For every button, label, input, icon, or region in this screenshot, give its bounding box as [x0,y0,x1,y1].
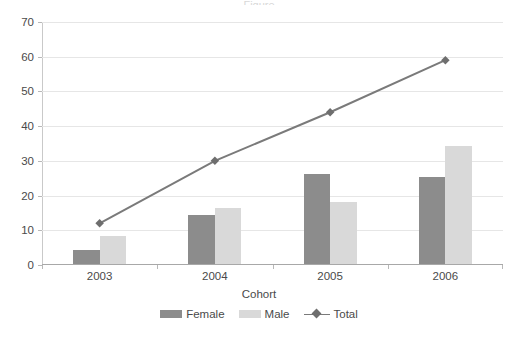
bar-group [304,21,357,264]
legend-item-female[interactable]: Female [160,308,224,320]
x-tick-label-2003: 2003 [87,270,113,282]
bar-group [419,21,472,264]
x-tick-mark [42,265,43,269]
x-tick-mark [388,265,389,269]
bar-group [188,21,241,264]
bar-female-2006[interactable] [419,177,446,264]
x-tick-mark [157,265,158,269]
y-tick-label: 70 [0,16,34,28]
legend-swatch-female-icon [160,310,182,318]
y-tick-label: 10 [0,224,34,236]
chart-title-cropped: Figure [0,0,518,5]
legend-swatch-male-icon [239,310,261,318]
bar-female-2004[interactable] [188,215,215,264]
bar-male-2004[interactable] [215,208,242,264]
bar-male-2003[interactable] [100,236,127,264]
plot-area [42,22,503,265]
bar-series-layer [42,22,503,265]
legend-item-male[interactable]: Male [239,308,290,320]
bar-group [73,21,126,264]
x-tick-label-2004: 2004 [202,270,228,282]
bar-female-2003[interactable] [73,250,100,264]
y-tick-label: 30 [0,155,34,167]
bar-male-2006[interactable] [445,146,472,264]
x-tick-mark [502,265,503,269]
y-tick-label: 50 [0,85,34,97]
chart-legend: Female Male Total [0,308,518,320]
legend-swatch-total-icon [304,310,330,319]
y-tick-label: 60 [0,51,34,63]
y-tick-label: 0 [0,259,34,271]
y-tick-label: 40 [0,120,34,132]
legend-label-female: Female [186,308,224,320]
y-tick-label: 20 [0,190,34,202]
bar-male-2005[interactable] [330,202,357,264]
legend-label-total: Total [334,308,358,320]
x-tick-label-2006: 2006 [433,270,459,282]
legend-label-male: Male [265,308,290,320]
x-tick-mark [273,265,274,269]
x-tick-label-2005: 2005 [317,270,343,282]
legend-item-total[interactable]: Total [304,308,358,320]
chart-container: Figure 010203040506070 2003200420052006 … [0,0,518,339]
x-axis-title: Cohort [0,288,518,300]
bar-female-2005[interactable] [304,174,331,264]
